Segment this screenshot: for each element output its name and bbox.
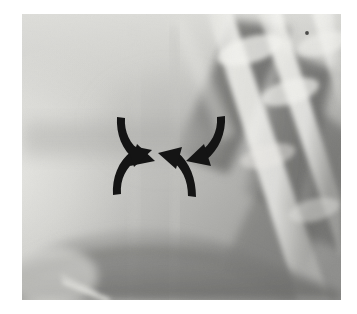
film-grain: [22, 14, 341, 300]
radiograph-image: [22, 14, 341, 300]
xray-canvas: [22, 14, 341, 300]
figure-root: Grayscale chest radiograph detail with f…: [0, 0, 357, 314]
